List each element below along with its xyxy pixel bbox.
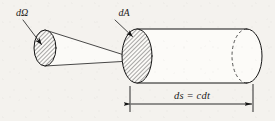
solid-angle-label: dΩ [16,7,28,18]
figure-container: dΩ dA ds = cdt [0,0,275,121]
area-element-leader-line [115,20,133,37]
solid-angle-leader [23,20,42,45]
area-element-label: dA [118,7,130,18]
physics-diagram-svg: dΩ dA ds = cdt [0,0,275,121]
path-length-label: ds = cdt [174,90,211,101]
area-element-leader [115,20,133,37]
solid-angle-leader-line [23,20,42,45]
